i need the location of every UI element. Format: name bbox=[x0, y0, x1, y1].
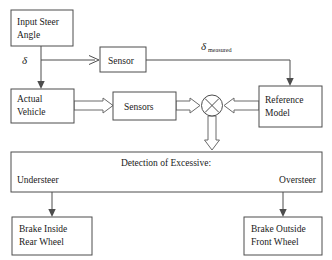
brake-inside-line2: Rear Wheel bbox=[19, 237, 64, 247]
summing-junction[interactable] bbox=[202, 95, 223, 116]
delta-measured-symbol: δ bbox=[201, 40, 207, 52]
connector-sensors-to-junction bbox=[176, 98, 200, 113]
block-input-steer-angle[interactable]: Input Steer Angle bbox=[11, 10, 73, 46]
input-steer-angle-line1: Input Steer bbox=[17, 17, 60, 27]
sensor-label: Sensor bbox=[108, 56, 135, 66]
block-sensors[interactable]: Sensors bbox=[113, 92, 176, 120]
connector-detection-to-brake-inside bbox=[48, 192, 55, 217]
detection-oversteer-label: Oversteer bbox=[279, 175, 317, 185]
connector-detection-to-brake-outside bbox=[279, 192, 286, 217]
block-sensor[interactable]: Sensor bbox=[100, 47, 146, 72]
delta-measured-subscript: measured bbox=[208, 46, 233, 53]
detection-understeer-label: Understeer bbox=[17, 175, 60, 185]
actual-vehicle-line1: Actual bbox=[17, 94, 43, 104]
block-actual-vehicle[interactable]: Actual Vehicle bbox=[11, 89, 74, 123]
connector-reference-to-junction bbox=[224, 98, 259, 113]
connector-junction-to-detection bbox=[205, 116, 220, 150]
reference-model-line1: Reference bbox=[265, 95, 304, 105]
signal-label-delta: δ bbox=[22, 54, 28, 66]
actual-vehicle-line2: Vehicle bbox=[17, 107, 46, 117]
input-steer-angle-line2: Angle bbox=[17, 30, 40, 40]
block-reference-model[interactable]: Reference Model bbox=[259, 86, 322, 127]
reference-model-line2: Model bbox=[265, 108, 290, 118]
diagram-canvas: Input Steer Angle Sensor Actual Vehicle … bbox=[0, 0, 332, 260]
connector-steer-to-sensor bbox=[41, 56, 99, 65]
block-diagram: Input Steer Angle Sensor Actual Vehicle … bbox=[0, 0, 332, 260]
connector-vehicle-to-sensors bbox=[74, 98, 113, 113]
block-brake-outside-front-wheel[interactable]: Brake Outside Front Wheel bbox=[244, 217, 322, 255]
brake-outside-line1: Brake Outside bbox=[251, 224, 306, 234]
detection-title: Detection of Excessive: bbox=[121, 158, 211, 168]
block-brake-inside-rear-wheel[interactable]: Brake Inside Rear Wheel bbox=[12, 217, 92, 255]
brake-inside-line1: Brake Inside bbox=[19, 224, 67, 234]
connector-delta-measured bbox=[146, 60, 294, 86]
signal-label-delta-measured: δ measured bbox=[201, 40, 233, 53]
sensors-label: Sensors bbox=[124, 102, 154, 112]
brake-outside-line2: Front Wheel bbox=[251, 237, 299, 247]
block-detection-of-excessive[interactable]: Detection of Excessive: Understeer Overs… bbox=[11, 152, 322, 192]
connector-steer-trunk bbox=[37, 46, 44, 89]
